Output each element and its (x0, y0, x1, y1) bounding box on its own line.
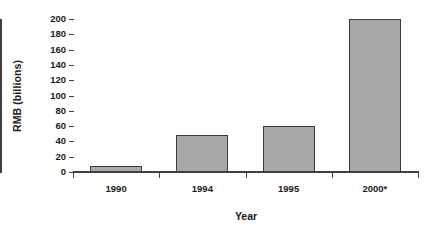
x-axis-title: Year (73, 210, 419, 222)
bar-chart: RMB (billions) 0204060801001201401601802… (0, 0, 439, 242)
bar (90, 166, 142, 172)
bar (349, 19, 401, 172)
x-axis-tick (246, 173, 247, 178)
bar (176, 135, 228, 172)
x-axis-tick-label: 1990 (81, 184, 151, 194)
x-axis-tick-label: 2000* (340, 184, 410, 194)
x-axis-tick-label: 1995 (254, 184, 324, 194)
x-axis-tick (73, 173, 74, 178)
x-axis-tick-label: 1994 (167, 184, 237, 194)
bars-layer (0, 0, 439, 242)
bar (263, 126, 315, 172)
x-axis-tick (332, 173, 333, 178)
x-axis-tick (418, 173, 419, 178)
x-axis-tick (159, 173, 160, 178)
